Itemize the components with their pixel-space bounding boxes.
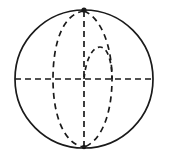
- sphere-diagram-root: [0, 0, 169, 165]
- north-pole-point: [81, 7, 86, 12]
- south-pole-point: [82, 145, 86, 149]
- sphere-diagram-canvas: [0, 0, 169, 165]
- inner-arc-upper-right: [84, 47, 112, 79]
